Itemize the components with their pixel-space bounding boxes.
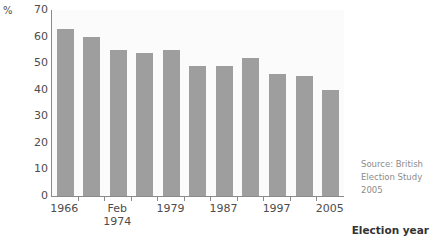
x-axis-label-1979: 1979 bbox=[156, 202, 184, 215]
x-axis-label-feb: Feb1974 bbox=[103, 202, 131, 228]
x-tick-mark bbox=[131, 196, 132, 201]
x-axis-label-line-1: Feb bbox=[108, 202, 127, 215]
bar-oct-1974 bbox=[136, 53, 153, 196]
x-axis-label-line-1: 1979 bbox=[156, 202, 184, 215]
bar-series bbox=[52, 10, 344, 196]
x-tick-mark bbox=[290, 196, 291, 201]
x-axis-label-1997: 1997 bbox=[263, 202, 291, 215]
x-axis-title: Election year bbox=[352, 224, 429, 236]
bar-1987 bbox=[216, 66, 233, 196]
bar-1979 bbox=[163, 50, 180, 196]
y-axis-tick-labels: 010203040506070 bbox=[18, 10, 48, 196]
bar-2005 bbox=[322, 90, 339, 196]
x-axis-label-line-1: 2005 bbox=[316, 202, 344, 215]
y-axis-tick-40: 40 bbox=[34, 85, 48, 95]
plot-area bbox=[51, 10, 344, 197]
source-note-line-3: 2005 bbox=[361, 184, 435, 197]
source-note-line-2: Election Study bbox=[361, 171, 435, 184]
y-axis-unit-label: % bbox=[3, 5, 13, 16]
x-tick-mark bbox=[316, 196, 317, 201]
bar-1966 bbox=[57, 29, 74, 196]
x-tick-mark bbox=[104, 196, 105, 201]
x-tick-mark bbox=[157, 196, 158, 201]
x-tick-mark bbox=[263, 196, 264, 201]
bar-feb-1974 bbox=[110, 50, 127, 196]
x-tick-mark bbox=[184, 196, 185, 201]
x-axis-tick-labels: 1966Feb19741979198719972005 bbox=[51, 202, 343, 236]
x-axis-label-line-1: 1997 bbox=[263, 202, 291, 215]
x-axis-tick-marks bbox=[51, 196, 343, 201]
x-axis-label-1966: 1966 bbox=[50, 202, 78, 215]
y-axis-tick-10: 10 bbox=[34, 164, 48, 174]
x-axis-label-line-1: 1987 bbox=[210, 202, 238, 215]
bar-1983 bbox=[189, 66, 206, 196]
y-axis-tick-50: 50 bbox=[34, 58, 48, 68]
x-tick-mark bbox=[237, 196, 238, 201]
bar-1992 bbox=[242, 58, 259, 196]
source-note-line-1: Source: British bbox=[361, 158, 435, 171]
bar-2001 bbox=[296, 76, 313, 196]
y-axis-tick-20: 20 bbox=[34, 138, 48, 148]
bar-1997 bbox=[269, 74, 286, 196]
bar-chart-figure: % 010203040506070 1966Feb197419791987199… bbox=[0, 0, 435, 246]
y-axis-tick-0: 0 bbox=[41, 191, 48, 201]
y-axis-tick-60: 60 bbox=[34, 32, 48, 42]
x-tick-mark bbox=[210, 196, 211, 201]
x-axis-label-2005: 2005 bbox=[316, 202, 344, 215]
x-tick-mark bbox=[78, 196, 79, 201]
y-axis-tick-30: 30 bbox=[34, 111, 48, 121]
x-axis-label-1987: 1987 bbox=[210, 202, 238, 215]
source-note: Source: British Election Study 2005 bbox=[361, 158, 435, 197]
x-axis-label-line-2: 1974 bbox=[103, 215, 131, 228]
bar-1970 bbox=[83, 37, 100, 196]
x-axis-label-line-1: 1966 bbox=[50, 202, 78, 215]
y-axis-tick-70: 70 bbox=[34, 5, 48, 15]
